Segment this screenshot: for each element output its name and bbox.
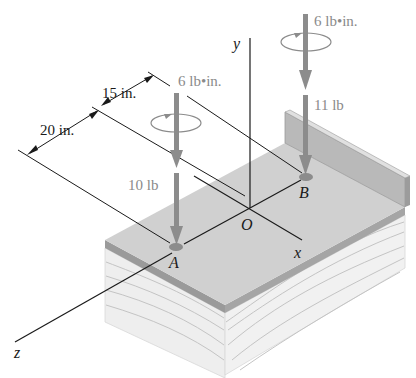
dim-label-20-in: 20 in. xyxy=(40,122,74,138)
axis-label-y: y xyxy=(231,35,241,53)
rotation-arrowhead-A xyxy=(164,114,172,119)
point-label-B: B xyxy=(299,184,309,201)
diagram-canvas: 20 in. 15 in. y x z O A B 6 lb•in. 10 lb… xyxy=(0,0,416,378)
rotation-arrowhead-B xyxy=(294,33,302,38)
extension-line-A xyxy=(18,150,170,243)
point-label-O: O xyxy=(241,216,253,233)
axis-label-z: z xyxy=(13,344,21,361)
arrowhead xyxy=(27,145,38,155)
couple-arrowhead-B xyxy=(299,70,312,90)
arrowhead xyxy=(144,75,154,83)
point-B-marker xyxy=(299,173,313,181)
force-shaft-B xyxy=(303,95,308,157)
extension-line-B xyxy=(148,72,170,86)
force-label-B: 11 lb xyxy=(314,97,344,113)
couple-label-A: 6 lb•in. xyxy=(178,73,222,89)
force-shaft-A xyxy=(174,173,179,228)
point-label-A: A xyxy=(168,254,179,271)
couple-shaft-A xyxy=(174,93,179,153)
axis-label-x: x xyxy=(293,244,301,261)
force-label-A: 10 lb xyxy=(128,177,158,193)
dim-label-15-in: 15 in. xyxy=(102,85,136,101)
couple-label-B: 6 lb•in. xyxy=(314,13,358,29)
arrowhead xyxy=(89,110,99,119)
extension-line-mid xyxy=(92,107,245,196)
point-A-marker xyxy=(169,243,183,251)
plate-flange-end xyxy=(405,176,410,207)
couple-shaft-B xyxy=(303,14,308,72)
